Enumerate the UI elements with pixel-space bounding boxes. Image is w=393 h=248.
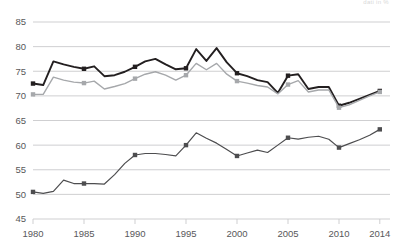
y-axis-label-65: 65 xyxy=(15,115,26,126)
data-point-marker-lower-line-1995 xyxy=(184,143,188,147)
x-axis-label-1985: 1985 xyxy=(73,228,94,239)
y-axis-label-50: 50 xyxy=(15,189,26,200)
x-axis-label-2000: 2000 xyxy=(226,228,247,239)
data-point-marker-upper-dark-line-1980 xyxy=(31,81,35,85)
data-point-marker-lower-line-2010 xyxy=(337,145,341,149)
data-point-marker-upper-grey-line-2000 xyxy=(235,79,239,83)
x-axis-label-2014: 2014 xyxy=(369,228,390,239)
data-point-marker-upper-grey-line-1995 xyxy=(184,73,188,77)
y-axis-label-60: 60 xyxy=(15,140,26,151)
chart-container: dati in % 455055606570758085198019851990… xyxy=(0,0,393,248)
y-axis-label-45: 45 xyxy=(15,213,26,224)
data-point-marker-upper-dark-line-2000 xyxy=(235,71,239,75)
data-point-marker-upper-grey-line-1985 xyxy=(82,81,86,85)
series-line-upper-dark-line xyxy=(33,48,380,106)
y-axis-label-85: 85 xyxy=(15,16,26,27)
data-point-marker-lower-line-2000 xyxy=(235,154,239,158)
data-point-marker-upper-grey-line-1990 xyxy=(133,76,137,80)
data-point-marker-lower-line-1980 xyxy=(31,190,35,194)
data-point-marker-lower-line-1990 xyxy=(133,153,137,157)
line-chart-plot: 4550556065707580851980198519901995200020… xyxy=(0,0,393,248)
data-point-marker-lower-line-2014 xyxy=(378,127,382,131)
data-point-marker-upper-grey-line-2005 xyxy=(286,82,290,86)
data-point-marker-upper-grey-line-2014 xyxy=(378,90,382,94)
data-point-marker-upper-dark-line-1985 xyxy=(82,67,86,71)
data-point-marker-lower-line-1985 xyxy=(82,181,86,185)
y-axis-label-70: 70 xyxy=(15,90,26,101)
x-axis-label-1995: 1995 xyxy=(175,228,196,239)
data-point-marker-upper-grey-line-1980 xyxy=(31,92,35,96)
data-point-marker-upper-dark-line-1995 xyxy=(184,66,188,70)
data-point-marker-upper-dark-line-1990 xyxy=(133,65,137,69)
y-axis-label-80: 80 xyxy=(15,41,26,52)
x-axis-label-2005: 2005 xyxy=(277,228,298,239)
y-axis-label-75: 75 xyxy=(15,66,26,77)
data-point-marker-upper-dark-line-2005 xyxy=(286,73,290,77)
data-point-marker-upper-grey-line-2010 xyxy=(337,106,341,110)
x-axis-label-1990: 1990 xyxy=(124,228,145,239)
x-axis-label-2010: 2010 xyxy=(328,228,349,239)
data-point-marker-lower-line-2005 xyxy=(286,136,290,140)
y-axis-label-55: 55 xyxy=(15,164,26,175)
x-axis-label-1980: 1980 xyxy=(22,228,43,239)
